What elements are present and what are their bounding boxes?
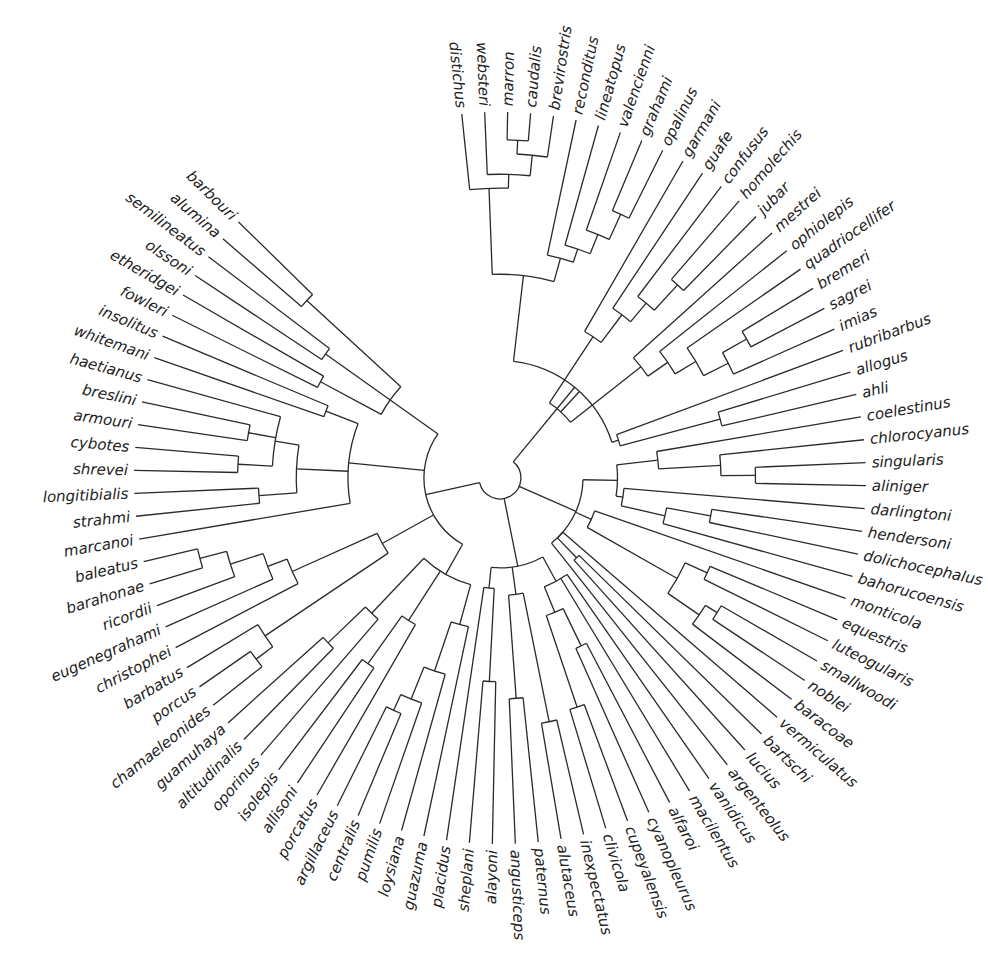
branch: [230, 554, 263, 564]
branch-arc: [424, 434, 463, 544]
branch: [144, 549, 198, 562]
branch: [139, 503, 350, 539]
taxon-label: websteri: [473, 42, 494, 108]
taxon-label: darlingtoni: [870, 500, 953, 525]
branch: [755, 483, 866, 485]
branch: [489, 588, 494, 681]
branch: [328, 607, 365, 643]
branch: [147, 380, 280, 417]
branch: [512, 567, 516, 594]
branch: [154, 358, 324, 417]
taxon-label: cybotes: [70, 433, 130, 456]
branch: [172, 315, 317, 387]
branch: [667, 508, 711, 516]
branch: [563, 609, 581, 646]
branch: [183, 295, 324, 376]
branch: [513, 387, 574, 462]
branch: [546, 616, 557, 649]
branch: [541, 723, 561, 839]
branch: [326, 354, 391, 400]
branch: [136, 503, 260, 516]
branch: [609, 214, 620, 239]
branch: [528, 113, 530, 141]
branch: [659, 465, 721, 469]
branch: [547, 116, 553, 157]
taxon-label: caudalis: [522, 45, 545, 108]
branch: [509, 595, 514, 664]
branch: [617, 460, 658, 465]
branch: [721, 606, 817, 661]
branch: [208, 257, 329, 349]
branch: [574, 560, 745, 750]
branch: [530, 155, 532, 176]
branch: [394, 695, 401, 711]
branch: [256, 647, 273, 659]
branch: [543, 557, 556, 581]
taxon-label: aliniger: [872, 477, 929, 496]
branch: [489, 188, 492, 274]
branch: [135, 447, 238, 456]
branch: [380, 703, 422, 824]
branch: [200, 551, 227, 558]
branch: [590, 235, 598, 254]
branch: [492, 682, 495, 844]
branch: [573, 249, 577, 262]
branch: [187, 625, 258, 668]
taxon-label: longitibialis: [42, 485, 128, 507]
branch: [268, 559, 287, 566]
branch: [489, 567, 491, 588]
taxon-label: shrevei: [73, 460, 129, 479]
branch: [563, 532, 777, 717]
branch: [326, 411, 358, 423]
taxon-label: alutaceus: [553, 843, 583, 918]
branch: [411, 667, 424, 699]
branch: [668, 593, 699, 614]
branch: [601, 315, 622, 343]
branch: [576, 648, 649, 812]
branch: [549, 337, 593, 403]
phylogenetic-tree: distichuswebsterimarroncaudalisbrevirost…: [0, 0, 988, 968]
branch: [586, 643, 669, 802]
branch: [620, 419, 720, 446]
branch: [586, 132, 620, 230]
tree-branches: [134, 112, 866, 844]
taxon-label: strahmi: [72, 508, 132, 532]
taxon-label: distichus: [445, 41, 470, 109]
branch: [382, 515, 433, 543]
branch: [705, 605, 717, 612]
branch: [296, 469, 348, 471]
branch: [718, 372, 850, 412]
branch-arc: [480, 462, 521, 499]
branch: [228, 637, 323, 722]
branch: [723, 339, 747, 353]
branch: [142, 402, 250, 425]
branch: [704, 363, 729, 375]
branch: [426, 483, 480, 495]
branch: [585, 161, 683, 331]
taxon-label: angusticeps: [507, 849, 529, 940]
branch: [675, 361, 696, 373]
branch: [195, 275, 322, 359]
branch: [424, 627, 468, 836]
taxon-label: marron: [499, 51, 518, 106]
branch: [390, 400, 438, 434]
branch: [509, 699, 515, 844]
branch: [244, 648, 333, 739]
branch: [617, 350, 843, 434]
branch: [616, 496, 623, 497]
taxon-label: sheplani: [455, 847, 478, 912]
branch: [265, 553, 388, 636]
branch: [485, 112, 488, 174]
branch: [435, 622, 452, 671]
branch: [409, 571, 441, 620]
branch: [469, 681, 483, 843]
branch: [720, 440, 864, 455]
branch: [337, 707, 386, 806]
branch: [570, 709, 606, 828]
branch: [238, 464, 272, 466]
branch: [504, 498, 518, 566]
branch: [660, 251, 787, 352]
branch: [523, 698, 538, 842]
branch: [297, 668, 373, 783]
branch: [583, 480, 617, 481]
